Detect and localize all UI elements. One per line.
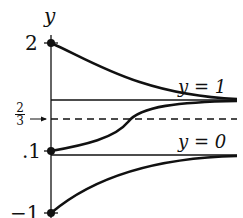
tick-label-2: 2	[25, 31, 38, 55]
point-2	[47, 39, 55, 47]
label-y-equals-1: y = 1	[178, 76, 226, 97]
tick-label-neg1: −1	[10, 201, 39, 218]
point-0.1	[47, 147, 55, 155]
tick-label-0.1: .1	[22, 139, 41, 163]
axis-label-y: y	[44, 4, 55, 28]
arrow-icon	[41, 117, 47, 122]
tick-label-two-thirds: 2 3	[15, 102, 25, 127]
curve-from-neg1	[51, 156, 237, 213]
label-y-equals-0: y = 0	[178, 131, 226, 152]
point-neg1	[47, 209, 55, 217]
